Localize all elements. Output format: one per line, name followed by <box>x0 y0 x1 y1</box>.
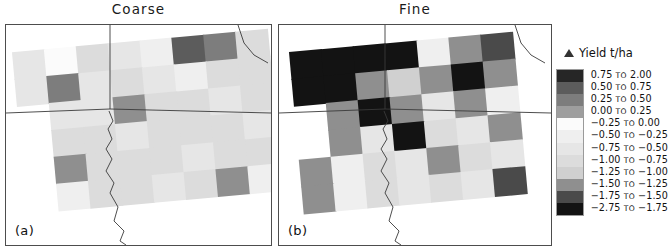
raster-cell <box>181 142 216 173</box>
raster-cell <box>333 181 368 212</box>
legend-entry-label: −1.75 TO −1.50 <box>591 190 668 202</box>
raster-cell <box>389 94 424 125</box>
legend-swatch <box>557 155 583 167</box>
raster-cell <box>117 148 152 179</box>
legend-entry-label: −0.25 TO 0.00 <box>591 117 668 129</box>
raster-cell <box>492 166 527 197</box>
raster-cell <box>49 100 84 131</box>
raster-cell <box>108 40 143 71</box>
raster-cells-coarse <box>6 25 271 245</box>
panel-title-coarse: Coarse <box>5 1 272 17</box>
delta-triangle-icon <box>564 49 574 57</box>
raster-cell <box>321 46 356 77</box>
legend-swatch <box>557 179 583 191</box>
raster-cell <box>291 76 326 107</box>
raster-cell <box>245 136 271 167</box>
legend-entry-label: −1.00 TO −0.75 <box>591 154 668 166</box>
legend-swatch <box>557 94 583 106</box>
raster-cell <box>483 59 518 90</box>
raster-cell <box>385 40 420 71</box>
raster-cell <box>144 91 179 122</box>
legend-labels: 0.75 TO 2.000.50 TO 0.750.25 TO 0.500.00… <box>591 69 668 214</box>
raster-cell <box>458 142 493 173</box>
raster-cell <box>394 148 429 179</box>
raster-cell <box>208 86 243 117</box>
raster-cell <box>242 110 271 141</box>
legend-entry-label: −2.75 TO −1.75 <box>591 202 668 214</box>
raster-cell <box>46 73 81 104</box>
raster-cell <box>426 145 461 176</box>
raster-cell <box>176 88 211 119</box>
legend-swatch <box>557 191 583 203</box>
raster-cell <box>387 67 422 98</box>
raster-cell <box>453 88 488 119</box>
legend: Yield t/ha 0.75 TO 2.000.50 TO 0.750.25 … <box>556 46 668 216</box>
raster-cell <box>490 139 525 170</box>
raster-cell <box>456 115 491 146</box>
raster-cell <box>120 175 155 206</box>
raster-cell <box>78 70 113 101</box>
map-panel-fine: (b) <box>278 24 552 246</box>
raster-cell <box>289 49 324 80</box>
raster-cell <box>451 61 486 92</box>
raster-cell <box>353 43 388 74</box>
raster-cell <box>110 67 145 98</box>
legend-swatch <box>557 167 583 179</box>
legend-swatch <box>557 106 583 118</box>
raster-cell <box>461 169 496 200</box>
legend-entry-label: 0.75 TO 2.00 <box>591 69 668 81</box>
raster-cell <box>85 151 120 182</box>
legend-swatch <box>557 143 583 155</box>
raster-cell <box>81 97 116 128</box>
raster-layer-fine <box>279 25 551 245</box>
legend-entry-label: 0.25 TO 0.50 <box>591 93 668 105</box>
legend-swatch <box>557 118 583 130</box>
panel-corner-label-a: (a) <box>15 223 34 238</box>
raster-layer-coarse <box>6 25 271 245</box>
raster-cell <box>44 46 79 77</box>
raster-cell <box>419 64 454 95</box>
raster-cell <box>112 94 147 125</box>
raster-cell <box>485 85 520 116</box>
raster-cell <box>416 37 451 68</box>
raster-cell <box>326 100 361 131</box>
raster-cell <box>142 64 177 95</box>
raster-cell <box>358 97 393 128</box>
raster-cell <box>392 121 427 152</box>
legend-swatch <box>557 82 583 94</box>
legend-swatch <box>557 203 583 215</box>
raster-cell <box>211 112 246 143</box>
legend-entry-label: −0.50 TO −0.25 <box>591 129 668 141</box>
raster-cell <box>421 91 456 122</box>
legend-entry-label: 0.50 TO 0.75 <box>591 81 668 93</box>
raster-cell <box>365 178 400 209</box>
raster-cell <box>397 175 432 206</box>
raster-cell <box>299 157 334 188</box>
legend-header: Yield t/ha <box>564 46 668 60</box>
raster-cell <box>76 43 111 74</box>
raster-cell <box>240 83 271 114</box>
raster-cell <box>149 145 184 176</box>
raster-cell <box>360 124 395 155</box>
raster-cell <box>152 172 187 203</box>
legend-entry-label: −1.50 TO −1.25 <box>591 178 668 190</box>
raster-cell <box>12 49 47 80</box>
raster-cell <box>14 76 49 107</box>
raster-cell <box>480 32 515 63</box>
legend-swatches <box>556 69 584 216</box>
raster-cell <box>301 184 336 215</box>
raster-cell <box>88 178 123 209</box>
raster-cell <box>323 73 358 104</box>
map-panel-coarse: (a) <box>5 24 272 246</box>
raster-cell <box>448 35 483 66</box>
panel-title-fine: Fine <box>278 1 552 17</box>
raster-cell <box>206 59 241 90</box>
figure-root: Coarse Fine (a) (b) <box>0 0 670 248</box>
raster-cell <box>54 154 89 185</box>
legend-swatch <box>557 70 583 82</box>
legend-swatch <box>557 130 583 142</box>
raster-cell <box>56 181 91 212</box>
raster-cell <box>424 118 459 149</box>
raster-cell <box>237 56 271 87</box>
raster-cell <box>139 38 174 69</box>
